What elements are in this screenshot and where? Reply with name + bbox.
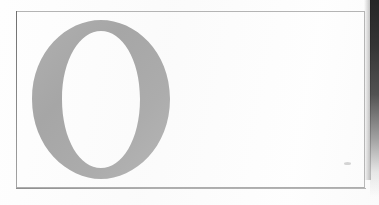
scanned-page: O <box>0 0 379 205</box>
page-rule-bottom <box>16 188 366 189</box>
dropcap-letter-o <box>32 20 170 179</box>
page-rule-left <box>16 11 17 189</box>
